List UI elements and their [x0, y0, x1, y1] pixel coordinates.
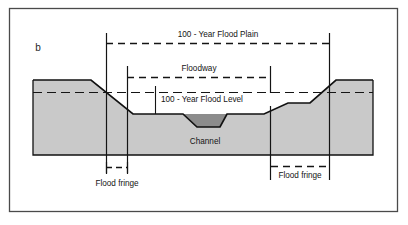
floodway-label: Floodway — [181, 64, 217, 73]
flood-plain-cross-section-diagram: 100 - Year Flood Plain Floodway 100 - Ye… — [0, 0, 408, 225]
flood-plain-label: 100 - Year Flood Plain — [178, 30, 259, 39]
panel-label: b — [35, 42, 41, 53]
flood-fringe-right-label: Flood fringe — [278, 171, 322, 180]
figure-container: 100 - Year Flood Plain Floodway 100 - Ye… — [0, 0, 408, 225]
flood-fringe-left-label: Flood fringe — [95, 179, 139, 188]
flood-level-label: 100 - Year Flood Level — [161, 95, 243, 104]
channel-label: Channel — [190, 137, 221, 146]
